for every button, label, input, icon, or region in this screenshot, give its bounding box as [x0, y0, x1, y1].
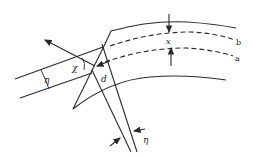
eta-label-left: η [44, 75, 50, 85]
transmitted-beam-left-edge [92, 70, 131, 152]
plane-label-b: b [236, 38, 241, 47]
bragg-diffraction-diagram: η χ b a x d η [0, 0, 253, 157]
eta-arrow-bottom-right [134, 129, 145, 131]
crystal-lower-surface [73, 76, 226, 109]
eta-label-bottom: η [143, 135, 149, 145]
eta-arrow-bottom-left [110, 138, 120, 146]
x-label: x [166, 37, 171, 46]
incident-beam-lower-edge [20, 73, 92, 98]
chi-label: χ [71, 63, 78, 73]
transmitted-beam-right-edge [102, 44, 137, 152]
d-label: d [101, 74, 107, 84]
lattice-plane-b [110, 32, 235, 46]
plane-label-a: a [235, 54, 240, 63]
lattice-plane-a [105, 48, 233, 62]
